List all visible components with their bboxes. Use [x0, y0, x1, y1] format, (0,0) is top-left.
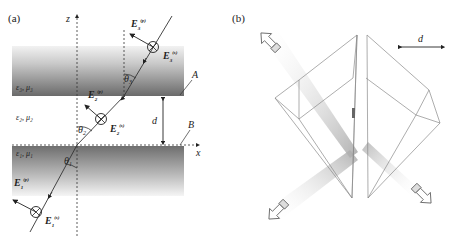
transmitted-beam — [362, 142, 420, 198]
panel-a: (a) x z — [8, 12, 201, 236]
gap-d-label-b: d — [418, 33, 424, 44]
medium-1-slab — [12, 146, 184, 196]
p-pol-arrow-3 — [130, 34, 153, 47]
panel-b: (b) — [232, 12, 443, 224]
right-prism — [366, 35, 440, 198]
medium-1-label: ε₁, μ₁ — [16, 149, 33, 158]
interface-B-label: B — [188, 119, 194, 130]
medium-2-label: ε₂, μ₂ — [16, 113, 33, 122]
interface-B-leader — [180, 130, 190, 145]
E1s-label: E1(s) — [44, 215, 60, 228]
p-pol-arrow-1 — [13, 200, 36, 212]
interface-A-label: A — [191, 69, 199, 80]
gap-d-label: d — [152, 115, 158, 126]
theta2-label: θ2 — [78, 124, 86, 136]
z-axis-label: z — [65, 13, 70, 24]
panel-b-label: (b) — [232, 12, 245, 25]
reflected-beam — [272, 150, 358, 220]
E2s-label: E2(s) — [109, 123, 125, 136]
panel-a-label: (a) — [8, 12, 21, 25]
medium-3-label: ε₃, μ₃ — [16, 83, 33, 92]
x-axis-label: x — [195, 147, 201, 158]
figure: (a) x z — [0, 0, 454, 240]
p-pol-arrow-2 — [85, 105, 101, 119]
E3p-label: E3(p) — [130, 18, 146, 31]
contact-region — [352, 108, 355, 118]
